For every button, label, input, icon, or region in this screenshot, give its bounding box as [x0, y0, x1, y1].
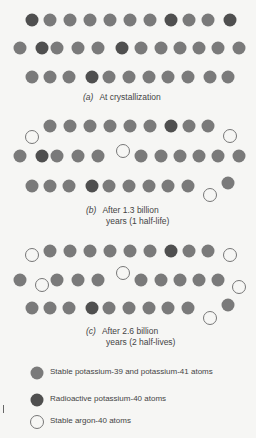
stable-potassium-atom: [155, 150, 168, 163]
stable-potassium-atom: [51, 42, 64, 55]
stable-potassium-atom: [174, 42, 187, 55]
stable-potassium-atom: [104, 245, 117, 258]
stable-potassium-atom: [212, 150, 225, 163]
panel-label: (a): [83, 92, 93, 102]
argon-atom: [26, 249, 39, 262]
stable-potassium-atom: [144, 120, 157, 133]
stable-potassium-atom: [183, 14, 196, 27]
argon-atom: [224, 130, 237, 143]
panel-1: [14, 120, 246, 202]
stable-potassium-atom: [233, 150, 246, 163]
panel-caption: (c)After 2.6 billionyears (2 half-lives): [86, 326, 175, 348]
stable-potassium-atom: [103, 302, 116, 315]
stable-potassium-atom: [14, 150, 27, 163]
stable-potassium-atom: [233, 42, 246, 55]
stable-potassium-atom: [204, 71, 217, 84]
stable-potassium-atom: [124, 245, 137, 258]
stable-potassium-atom: [135, 274, 148, 287]
stable-potassium-atom: [84, 120, 97, 133]
stable-potassium-atom: [44, 245, 57, 258]
stable-potassium-atom: [202, 245, 215, 258]
stable-potassium-atom: [103, 71, 116, 84]
stable-potassium-atom: [162, 302, 175, 315]
stable-potassium-atom: [103, 180, 116, 193]
stable-potassium-atom: [63, 180, 76, 193]
argon-atom: [117, 267, 130, 280]
stable-potassium-atom: [14, 274, 27, 287]
potassium-40-atom: [165, 120, 178, 133]
stable-potassium-atom: [222, 71, 235, 84]
stable-potassium-atom: [183, 120, 196, 133]
stable-potassium-atom: [84, 245, 97, 258]
potassium-40-atom: [31, 394, 44, 407]
stable-potassium-atom: [182, 302, 195, 315]
panel-2: [14, 245, 246, 325]
argon-atom: [224, 249, 237, 262]
stable-potassium-atom: [44, 302, 57, 315]
argon-atom: [26, 131, 39, 144]
stable-potassium-atom: [162, 180, 175, 193]
stable-potassium-atom: [193, 42, 206, 55]
stable-potassium-atom: [124, 14, 137, 27]
stable-potassium-atom: [212, 42, 225, 55]
stable-potassium-atom: [182, 71, 195, 84]
stable-potassium-atom: [143, 180, 156, 193]
stable-potassium-atom: [135, 42, 148, 55]
stable-potassium-atom: [44, 120, 57, 133]
potassium-40-atom: [26, 14, 39, 27]
argon-atom: [117, 145, 130, 158]
argon-atom: [233, 281, 246, 294]
stable-potassium-atom: [144, 14, 157, 27]
stable-potassium-atom: [155, 42, 168, 55]
argon-atom: [31, 416, 44, 429]
panel-0: [14, 14, 246, 84]
stable-potassium-atom: [64, 120, 77, 133]
stable-potassium-atom: [72, 150, 85, 163]
stable-potassium-atom: [202, 14, 215, 27]
stable-potassium-atom: [92, 150, 105, 163]
caption-line-2: years (1 half-life): [106, 216, 169, 226]
panel-caption: (a)At crystallization: [83, 92, 161, 103]
stable-potassium-atom: [31, 367, 44, 380]
stable-potassium-atom: [174, 150, 187, 163]
potassium-40-atom: [224, 14, 237, 27]
potassium-40-atom: [86, 302, 99, 315]
stable-potassium-atom: [135, 150, 148, 163]
stable-potassium-atom: [155, 274, 168, 287]
stable-potassium-atom: [51, 150, 64, 163]
stable-potassium-atom: [84, 14, 97, 27]
legend-label: Radioactive potassium-40 atoms: [50, 394, 166, 403]
stable-potassium-atom: [26, 71, 39, 84]
potassium-40-atom: [165, 14, 178, 27]
stable-potassium-atom: [202, 120, 215, 133]
stable-potassium-atom: [63, 71, 76, 84]
stable-potassium-atom: [222, 299, 235, 312]
argon-atom: [204, 189, 217, 202]
stable-potassium-atom: [44, 71, 57, 84]
panel-label: (b): [86, 205, 96, 215]
stable-potassium-atom: [182, 180, 195, 193]
stable-potassium-atom: [64, 245, 77, 258]
stable-potassium-atom: [124, 120, 137, 133]
stable-potassium-atom: [212, 274, 225, 287]
legend-label: Stable potassium-39 and potassium-41 ato…: [50, 367, 213, 376]
argon-atom: [204, 312, 217, 325]
stable-potassium-atom: [143, 302, 156, 315]
stable-potassium-atom: [193, 274, 206, 287]
stable-potassium-atom: [92, 42, 105, 55]
stable-potassium-atom: [123, 71, 136, 84]
stable-potassium-atom: [123, 180, 136, 193]
stable-potassium-atom: [63, 302, 76, 315]
caption-line-1: After 1.3 billion: [102, 205, 158, 215]
caption-line-1: At crystallization: [99, 92, 160, 102]
stable-potassium-atom: [104, 14, 117, 27]
stable-potassium-atom: [51, 274, 64, 287]
stable-potassium-atom: [144, 245, 157, 258]
stable-potassium-atom: [193, 150, 206, 163]
stable-potassium-atom: [14, 42, 27, 55]
stable-potassium-atom: [222, 177, 235, 190]
stable-potassium-atom: [44, 14, 57, 27]
caption-line-2: years (2 half-lives): [106, 337, 175, 347]
stable-potassium-atom: [143, 71, 156, 84]
potassium-40-atom: [36, 150, 49, 163]
